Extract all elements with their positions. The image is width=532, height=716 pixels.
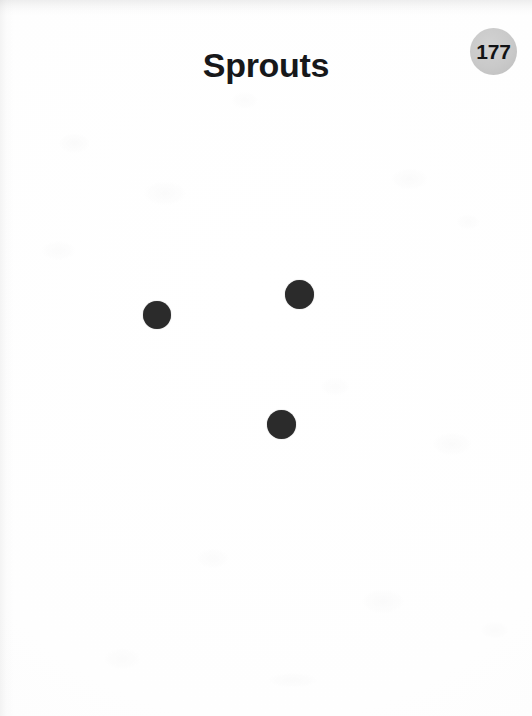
spot-upper-right bbox=[285, 280, 314, 309]
scanned-book-page: Sprouts 177 bbox=[0, 0, 532, 716]
spot-bottom bbox=[267, 410, 296, 439]
sprouts-game-board bbox=[0, 0, 532, 716]
spot-left bbox=[143, 301, 171, 329]
